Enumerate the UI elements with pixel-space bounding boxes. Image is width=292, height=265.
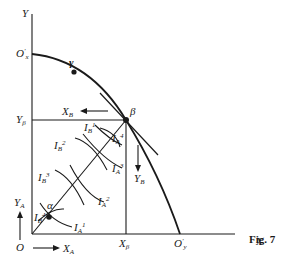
tangent-line xyxy=(100,93,158,155)
alpha-label: α xyxy=(47,200,53,211)
y-axis-label: Y xyxy=(22,8,28,19)
x-beta-label: Xβ xyxy=(119,238,129,251)
yb-arrowhead xyxy=(135,165,141,172)
figure-caption: Fig. 7 xyxy=(249,233,275,245)
gamma-point xyxy=(71,69,76,74)
ib1-label: IB1 xyxy=(84,122,95,135)
diagram-lines xyxy=(0,0,292,265)
o-prime-y-label: O′y xyxy=(174,238,187,251)
origin-label: O xyxy=(16,242,24,253)
ia3-label: IA3 xyxy=(112,163,123,176)
edgeworth-box-figure: Y X O O′x O′y Yβ Xβ γ β α XB YB YA XA IA… xyxy=(0,0,292,265)
xa-label: XA xyxy=(63,243,74,256)
ya-label: YA xyxy=(14,197,24,210)
xb-arrowhead xyxy=(80,108,87,114)
ia2-label: IA2 xyxy=(98,196,109,209)
ib3-label: IB3 xyxy=(38,172,49,185)
ia1-label: IA1 xyxy=(74,222,85,235)
y-beta-label: Yβ xyxy=(16,114,26,127)
o-prime-x-label: O′x xyxy=(16,48,29,61)
beta-point xyxy=(123,117,129,123)
gamma-label: γ xyxy=(69,57,74,68)
ib4-label: IB4 xyxy=(34,212,45,225)
alpha-point xyxy=(46,214,52,220)
ib3-curve xyxy=(55,170,84,205)
xa-arrowhead xyxy=(53,245,60,251)
xb-label: XB xyxy=(62,106,73,119)
ya-arrowhead xyxy=(17,211,23,218)
beta-label: β xyxy=(130,106,135,117)
yb-label: YB xyxy=(134,173,144,186)
ib2-label: IB2 xyxy=(54,140,65,153)
ia4-label: IA4 xyxy=(112,133,123,146)
